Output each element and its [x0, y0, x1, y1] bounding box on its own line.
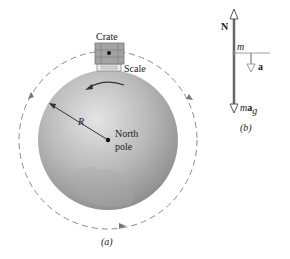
- figure-b-caption: (b): [240, 122, 252, 134]
- figure-b-free-body-diagram: N m a mag (b): [221, 9, 270, 134]
- crate-center-dot: [107, 51, 111, 55]
- gravity-force-arrowhead-icon: [230, 104, 238, 113]
- orbit-arrow-left-icon: [28, 92, 34, 99]
- physics-figure: R North pole Scale Crate (a) N m: [0, 0, 290, 259]
- scale-display: [101, 66, 117, 69]
- crate-label: Crate: [96, 31, 118, 42]
- gravity-force-label: mag: [240, 102, 257, 116]
- scale-label: Scale: [124, 63, 146, 74]
- acceleration-label: a: [258, 61, 263, 72]
- radius-label: R: [77, 116, 84, 127]
- crate: [95, 43, 124, 64]
- figure-a-caption: (a): [101, 236, 113, 248]
- normal-force-label: N: [221, 21, 229, 32]
- north-pole-label-line1: North: [115, 128, 138, 139]
- orbit-arrow-right-icon: [186, 94, 193, 100]
- mass-label: m: [237, 41, 244, 52]
- north-pole-dot: [106, 138, 110, 142]
- north-pole-label-line2: pole: [115, 141, 133, 152]
- acceleration-arrowhead-icon: [247, 64, 255, 72]
- mass-point: [232, 51, 235, 54]
- normal-force-arrowhead-icon: [230, 9, 238, 19]
- figure-a: R North pole Scale Crate (a): [19, 31, 197, 248]
